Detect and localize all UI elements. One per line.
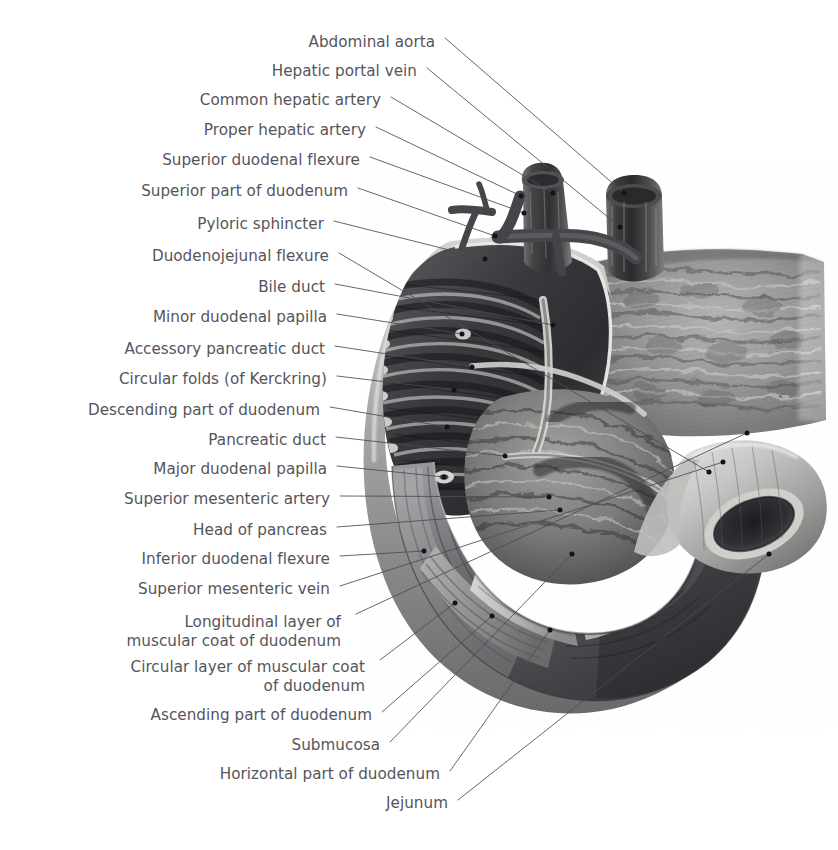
label-pancreatic-duct: Pancreatic duct (0, 431, 326, 451)
leader-dot-hepatic-portal-vein (618, 225, 623, 230)
label-duodenojejunal-flexure: Duodenojejunal flexure (0, 247, 329, 267)
leader-dot-superior-duodenal-flexure (522, 211, 527, 216)
leader-dot-bile-duct (551, 323, 556, 328)
leader-dot-superior-part-of-duodenum (493, 234, 498, 239)
leader-dot-minor-duodenal-papilla (460, 332, 465, 337)
leader-dot-jejunum (767, 552, 772, 557)
leader-dot-ascending-part-of-duodenum (490, 614, 495, 619)
leader-dot-superior-mesenteric-artery (547, 495, 552, 500)
label-hepatic-portal-vein: Hepatic portal vein (0, 62, 417, 82)
label-circular-layer: Circular layer of muscular coat of duode… (0, 658, 365, 697)
label-minor-duodenal-papilla: Minor duodenal papilla (0, 308, 327, 328)
label-proper-hepatic-artery: Proper hepatic artery (0, 121, 366, 141)
leader-dot-duodenojejunal-flexure (707, 470, 712, 475)
label-jejunum: Jejunum (0, 794, 448, 814)
label-superior-mesenteric-artery: Superior mesenteric artery (0, 490, 330, 510)
leader-dot-head-of-pancreas (558, 508, 563, 513)
label-pyloric-sphincter: Pyloric sphincter (0, 215, 324, 235)
leader-dot-horizontal-part-of-duodenum (548, 628, 553, 633)
label-accessory-pancreatic-duct: Accessory pancreatic duct (0, 340, 325, 360)
label-common-hepatic-artery: Common hepatic artery (0, 91, 381, 111)
label-submucosa: Submucosa (0, 736, 380, 756)
label-horizontal-part-of-duodenum: Horizontal part of duodenum (0, 765, 440, 785)
leader-dot-abdominal-aorta (622, 191, 627, 196)
label-superior-duodenal-flexure: Superior duodenal flexure (0, 151, 360, 171)
leader-dot-major-duodenal-papilla (442, 475, 447, 480)
label-major-duodenal-papilla: Major duodenal papilla (0, 460, 327, 480)
label-superior-mesenteric-vein: Superior mesenteric vein (0, 580, 330, 600)
leader-dot-submucosa (570, 552, 575, 557)
leader-dot-proper-hepatic-artery (519, 194, 524, 199)
leader-dot-longitudinal-layer (745, 431, 750, 436)
label-circular-folds: Circular folds (of Kerckring) (0, 370, 327, 390)
leader-dot-inferior-duodenal-flexure (422, 549, 427, 554)
label-descending-part-of-duodenum: Descending part of duodenum (0, 401, 320, 421)
label-head-of-pancreas: Head of pancreas (0, 521, 327, 541)
leader-dot-pyloric-sphincter (483, 257, 488, 262)
label-superior-part-of-duodenum: Superior part of duodenum (0, 182, 348, 202)
leader-dot-superior-mesenteric-vein (721, 460, 726, 465)
leader-dot-circular-layer (453, 601, 458, 606)
label-ascending-part-of-duodenum: Ascending part of duodenum (0, 706, 372, 726)
label-longitudinal-layer: Longitudinal layer of muscular coat of d… (0, 613, 341, 652)
label-bile-duct: Bile duct (0, 278, 325, 298)
leader-dot-pancreatic-duct (503, 454, 508, 459)
anatomy-plate: Abdominal aortaHepatic portal veinCommon… (0, 0, 838, 850)
label-inferior-duodenal-flexure: Inferior duodenal flexure (0, 550, 330, 570)
leader-dot-accessory-pancreatic-duct (470, 365, 475, 370)
leader-dot-descending-part-of-duodenum (445, 425, 450, 430)
leader-dot-common-hepatic-artery (551, 191, 556, 196)
label-abdominal-aorta: Abdominal aorta (0, 33, 435, 53)
leader-dot-circular-folds (452, 388, 457, 393)
